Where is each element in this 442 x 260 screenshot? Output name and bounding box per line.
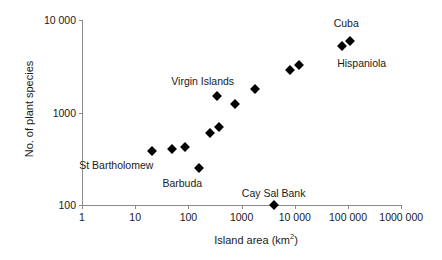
x-tick-mark <box>401 205 402 209</box>
data-point <box>194 163 204 173</box>
x-axis-title-superscript: 2 <box>290 232 294 241</box>
scatter-chart: 110100100010 000100 0001000 000 10010001… <box>0 0 442 260</box>
x-tick-label: 100 000 <box>329 211 367 223</box>
x-tick-label: 1000 000 <box>379 211 423 223</box>
y-tick-mark <box>79 205 83 206</box>
data-point <box>212 91 222 101</box>
x-tick-label: 100 <box>180 211 198 223</box>
data-point <box>285 65 295 75</box>
x-tick-mark <box>188 205 189 209</box>
data-point <box>345 36 355 46</box>
x-tick-mark <box>242 205 243 209</box>
data-point <box>269 200 279 210</box>
point-label: Hispaniola <box>337 57 386 69</box>
x-tick-label: 10 <box>129 211 141 223</box>
y-tick-mark <box>79 113 83 114</box>
point-label: Cay Sal Bank <box>242 187 306 199</box>
y-tick-label: 1000 <box>53 107 76 119</box>
y-tick-label: 10 000 <box>44 14 76 26</box>
x-axis-title: Island area (km2) <box>0 234 442 246</box>
data-point <box>337 41 347 51</box>
point-label: Cuba <box>334 17 359 29</box>
point-label: St Bartholomew <box>79 159 153 171</box>
x-tick-label: 1000 <box>230 211 253 223</box>
y-axis-title: No. of plant species <box>23 14 35 204</box>
x-tick-mark <box>348 205 349 209</box>
data-point <box>147 146 157 156</box>
data-point <box>167 144 177 154</box>
x-tick-label: 1 <box>79 211 85 223</box>
x-tick-mark <box>295 205 296 209</box>
x-tick-mark <box>135 205 136 209</box>
point-label: Barbuda <box>162 177 202 189</box>
data-point <box>250 84 260 94</box>
y-tick-label: 100 <box>58 199 76 211</box>
data-point <box>180 142 190 152</box>
data-point <box>230 99 240 109</box>
data-point <box>205 128 215 138</box>
y-tick-mark <box>79 20 83 21</box>
data-point <box>294 60 304 70</box>
point-label: Virgin Islands <box>171 75 234 87</box>
data-point <box>214 122 224 132</box>
x-tick-label: 10 000 <box>279 211 311 223</box>
